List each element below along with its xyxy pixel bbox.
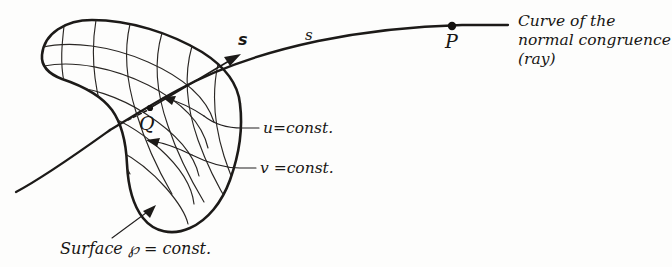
gridline-u-2	[44, 64, 208, 148]
gridline-v-1	[62, 26, 64, 82]
surface-caption-prefix: Surface	[60, 239, 123, 258]
tangent-vector-shaft	[150, 58, 234, 108]
ray-note-line-1: Curve of the	[518, 12, 671, 31]
surface-caption-suffix: = const.	[144, 239, 211, 258]
leader-surface-caption	[112, 210, 150, 238]
leader-u-const-arrowhead	[162, 96, 176, 105]
gridline-v-4	[157, 33, 204, 202]
label-ray-note: Curve of the normal congruence (ray)	[518, 12, 671, 69]
label-point-p: P	[445, 30, 458, 52]
label-u-const: u=const.	[263, 119, 333, 137]
label-tangent-vector: s	[238, 30, 248, 49]
leader-surface-caption-arrowhead	[143, 205, 156, 218]
label-arc-length: s	[305, 26, 313, 44]
surface-symbol: ℘	[128, 239, 139, 258]
differential-geometry-figure: Q P s s u=const. v =const. Surface ℘ = c…	[0, 0, 672, 267]
ray-note-line-2: normal congruence	[518, 31, 671, 50]
ray-curve-tail	[16, 130, 110, 192]
label-point-q: Q	[139, 112, 155, 134]
label-v-const: v =const.	[260, 159, 334, 177]
ray-note-line-3: (ray)	[518, 50, 671, 69]
label-surface-caption: Surface ℘ = const.	[60, 239, 211, 258]
gridline-u-3	[60, 86, 199, 176]
point-p-marker	[448, 22, 456, 30]
